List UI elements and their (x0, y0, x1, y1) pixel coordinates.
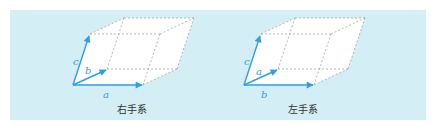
label-b: b (85, 65, 91, 76)
label-a: a (103, 89, 109, 100)
label-c: c (244, 56, 250, 67)
label-c: c (73, 56, 79, 67)
left-handed-diagram: b a c (244, 18, 365, 100)
caption-left-handed: 左手系 (288, 101, 318, 116)
caption-right-handed: 右手系 (117, 101, 147, 116)
right-handed-diagram: a b c (73, 18, 194, 100)
coordinate-systems-figure: a b c b a c (0, 0, 436, 130)
label-b: b (261, 89, 267, 100)
label-a: a (256, 66, 262, 77)
